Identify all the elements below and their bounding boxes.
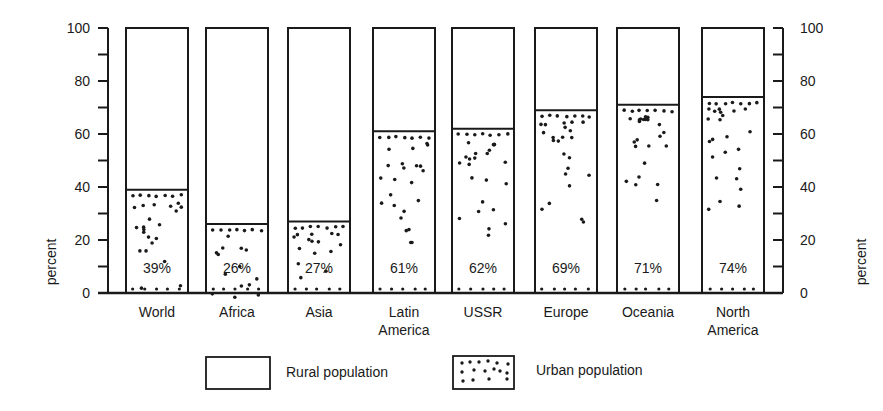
rural-segment	[288, 28, 350, 293]
data-label: 27%	[305, 260, 333, 276]
category-label: Asia	[305, 304, 332, 320]
bar-europe: 69%	[535, 28, 597, 293]
left-tick-label: 60	[74, 126, 90, 142]
legend-label-rural: Rural population	[286, 364, 388, 380]
data-label: 62%	[469, 260, 497, 276]
category-label: Latin	[389, 304, 419, 320]
legend: Rural population Urban population	[206, 356, 643, 389]
rural-segment	[373, 28, 435, 293]
category-label: America	[707, 322, 759, 338]
bar-world: 39%	[126, 28, 188, 293]
bar-north-america: 74%	[702, 28, 764, 293]
bar-ussr: 62%	[452, 28, 514, 293]
category-label: North	[716, 304, 750, 320]
category-label: America	[378, 322, 430, 338]
right-tick-label: 80	[800, 73, 816, 89]
data-label: 61%	[390, 260, 418, 276]
right-y-axis: 020406080100	[773, 20, 824, 301]
bar-oceania: 71%	[617, 28, 679, 293]
legend-label-urban: Urban population	[536, 362, 643, 378]
category-label: Oceania	[622, 304, 674, 320]
data-label: 69%	[552, 260, 580, 276]
category-label: Africa	[219, 304, 255, 320]
bars-group: 39%26%27%61%62%69%71%74%	[126, 28, 764, 299]
rural-segment	[535, 28, 597, 293]
urban-rural-population-chart: 020406080100 020406080100 39%26%27%61%62…	[0, 0, 883, 411]
left-tick-label: 100	[67, 20, 91, 36]
left-y-axis: 020406080100	[67, 20, 108, 301]
data-label: 26%	[223, 260, 251, 276]
category-label: USSR	[464, 304, 503, 320]
left-tick-label: 20	[74, 232, 90, 248]
rural-segment	[617, 28, 679, 293]
y-axis-title-left: percent	[43, 239, 59, 286]
right-tick-label: 40	[800, 179, 816, 195]
left-tick-label: 80	[74, 73, 90, 89]
legend-swatch-rural	[206, 357, 270, 389]
data-label: 71%	[634, 260, 662, 276]
right-tick-label: 100	[800, 20, 824, 36]
bar-latin-america: 61%	[373, 28, 435, 293]
category-label: World	[139, 304, 175, 320]
category-labels: WorldAfricaAsiaLatinAmericaUSSREuropeOce…	[139, 304, 759, 338]
bar-asia: 27%	[288, 28, 350, 293]
data-label: 74%	[719, 260, 747, 276]
bar-africa: 26%	[206, 28, 268, 299]
rural-segment	[126, 28, 188, 293]
left-tick-label: 40	[74, 179, 90, 195]
rural-segment	[702, 28, 764, 293]
y-axis-title-right: percent	[853, 239, 869, 286]
right-tick-label: 20	[800, 232, 816, 248]
rural-segment	[452, 28, 514, 293]
category-label: Europe	[543, 304, 588, 320]
data-label: 39%	[143, 260, 171, 276]
right-tick-label: 0	[800, 285, 808, 301]
left-tick-label: 0	[82, 285, 90, 301]
right-tick-label: 60	[800, 126, 816, 142]
